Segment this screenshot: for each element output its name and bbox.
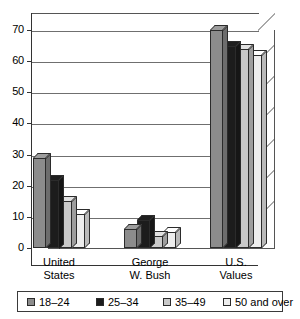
- x-axis-label-line: States: [14, 269, 104, 282]
- legend-swatch-icon: [96, 298, 104, 306]
- bar-side-face: [223, 25, 228, 248]
- bar-front-face: [210, 30, 223, 248]
- legend-item[interactable]: 25–34: [96, 295, 139, 309]
- x-axis-label: U.S.Values: [191, 256, 281, 282]
- bar: [124, 229, 137, 248]
- x-axis-label-line: U.S.: [191, 256, 281, 269]
- bar: [210, 30, 223, 248]
- y-axis-label: 40: [0, 117, 24, 128]
- x-axis-label-line: Values: [191, 269, 281, 282]
- x-axis-label-line: W. Bush: [105, 269, 195, 282]
- y-axis-label: 60: [0, 55, 24, 66]
- legend-items: 18–2425–3435–4950 and over: [18, 292, 282, 311]
- bar-side-face: [85, 209, 90, 248]
- y-axis-label: 0: [0, 242, 24, 253]
- y-axis-label: 10: [0, 211, 24, 222]
- legend-item[interactable]: 18–24: [27, 295, 70, 309]
- bar-chart: 706050403020100 UnitedStatesGeorgeW. Bus…: [0, 0, 300, 319]
- legend-item[interactable]: 50 and over: [223, 295, 293, 309]
- x-axis-label: GeorgeW. Bush: [105, 256, 195, 282]
- x-axis-label-line: George: [105, 256, 195, 269]
- bar-side-face: [59, 175, 64, 249]
- bar-side-face: [249, 44, 254, 248]
- y-axis-label: 50: [0, 86, 24, 97]
- y-axis-label: 70: [0, 24, 24, 35]
- legend-label: 35–49: [175, 296, 206, 309]
- bar-front-face: [124, 229, 137, 248]
- bar: [33, 158, 46, 248]
- y-axis-label: 20: [0, 180, 24, 191]
- x-axis-label: UnitedStates: [14, 256, 104, 282]
- bar-front-face: [33, 158, 46, 248]
- legend-swatch-icon: [27, 298, 35, 306]
- chart-legend: 18–2425–3435–4950 and over: [17, 291, 283, 312]
- y-axis-label: 30: [0, 149, 24, 160]
- legend-label: 50 and over: [235, 296, 293, 309]
- bar-side-face: [262, 50, 267, 248]
- legend-label: 18–24: [39, 296, 70, 309]
- bar-side-face: [150, 215, 155, 248]
- legend-item[interactable]: 35–49: [163, 295, 206, 309]
- x-axis-label-line: United: [14, 256, 104, 269]
- bar-side-face: [236, 41, 241, 248]
- bar-side-face: [46, 153, 51, 248]
- bar-side-face: [72, 196, 77, 248]
- legend-swatch-icon: [223, 298, 231, 306]
- legend-swatch-icon: [163, 298, 171, 306]
- floor-back-edge: [48, 248, 275, 249]
- plot-area: [31, 13, 275, 248]
- y-axis-line: [31, 13, 32, 265]
- legend-label: 25–34: [108, 296, 139, 309]
